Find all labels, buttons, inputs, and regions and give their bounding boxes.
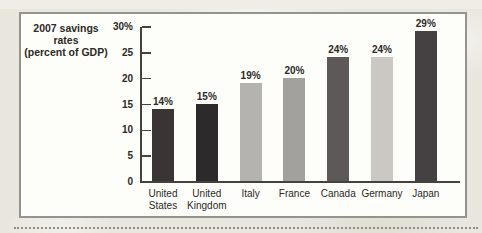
y-tick bbox=[142, 78, 151, 80]
bar-united-states bbox=[152, 109, 174, 181]
bar-japan bbox=[415, 31, 437, 181]
bar-value-label: 15% bbox=[185, 91, 229, 102]
page-top-strip bbox=[0, 0, 482, 9]
y-tick bbox=[142, 52, 151, 54]
bar-germany bbox=[371, 57, 393, 181]
x-axis bbox=[140, 181, 460, 183]
bar-value-label: 14% bbox=[141, 96, 185, 107]
y-tick-label: 5 bbox=[92, 150, 133, 161]
bar-value-label: 20% bbox=[272, 65, 316, 76]
y-tick-label: 30% bbox=[92, 21, 133, 32]
x-category-label-japan: Japan bbox=[400, 188, 452, 200]
y-tick-label: 0 bbox=[92, 176, 133, 187]
chart-title-line-2: rates bbox=[21, 34, 111, 46]
bar-united-kingdom bbox=[196, 104, 218, 182]
y-tick-label: 10 bbox=[92, 124, 133, 135]
y-tick-label: 20 bbox=[92, 73, 133, 84]
bar-value-label: 29% bbox=[404, 18, 448, 29]
bar-italy bbox=[240, 83, 262, 181]
plot-area: 051015202530%14%United States15%United K… bbox=[140, 27, 460, 182]
bar-canada bbox=[327, 57, 349, 181]
bar-france bbox=[283, 78, 305, 181]
page-background: 2007 savings rates (percent of GDP) 0510… bbox=[0, 0, 482, 233]
y-tick bbox=[142, 26, 151, 28]
bar-value-label: 19% bbox=[229, 70, 273, 81]
bar-value-label: 24% bbox=[316, 44, 360, 55]
y-tick bbox=[142, 130, 151, 132]
bar-value-label: 24% bbox=[360, 44, 404, 55]
chart-panel: 2007 savings rates (percent of GDP) 0510… bbox=[19, 12, 467, 218]
bottom-dotted-rule bbox=[14, 227, 478, 229]
y-tick-label: 25 bbox=[92, 47, 133, 58]
y-tick bbox=[142, 155, 151, 157]
y-tick-label: 15 bbox=[92, 99, 133, 110]
